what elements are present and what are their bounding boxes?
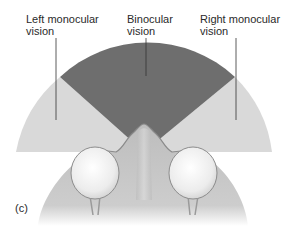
left-monocular-label: Left monocular vision — [26, 13, 99, 37]
panel-label: (c) — [15, 202, 28, 214]
right-monocular-label: Right monocular vision — [200, 13, 280, 37]
nose — [136, 128, 152, 200]
binocular-label: Binocular vision — [127, 13, 173, 37]
